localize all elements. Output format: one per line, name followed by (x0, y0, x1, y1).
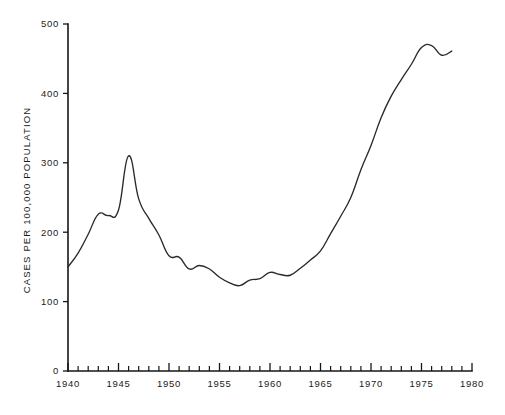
y-axis-title: CASES PER 100,000 POPULATION (21, 107, 32, 294)
x-tick-label-1950: 1950 (157, 378, 181, 389)
y-tick-label-200: 200 (41, 227, 59, 238)
y-axis-group: 0100200300400500 CASES PER 100,000 POPUL… (21, 18, 68, 376)
y-tick-label-0: 0 (53, 365, 59, 376)
x-tick-label-1945: 1945 (107, 378, 131, 389)
data-series-line (68, 44, 452, 285)
x-tick-label-1940: 1940 (56, 378, 80, 389)
x-tick-label-1960: 1960 (258, 378, 282, 389)
chart-canvas: 0100200300400500 CASES PER 100,000 POPUL… (0, 0, 505, 415)
x-tick-label-1965: 1965 (309, 378, 333, 389)
x-axis-ticks (68, 363, 472, 371)
line-chart-figure: 0100200300400500 CASES PER 100,000 POPUL… (0, 0, 505, 415)
x-tick-label-1980: 1980 (460, 378, 484, 389)
y-tick-label-500: 500 (41, 18, 59, 29)
y-tick-label-400: 400 (41, 88, 59, 99)
x-axis-tick-labels: 194019451950195519601965197019751980 (56, 378, 484, 389)
x-axis-group: 194019451950195519601965197019751980 (56, 363, 484, 389)
x-tick-label-1955: 1955 (208, 378, 232, 389)
y-axis-tick-labels: 0100200300400500 (41, 18, 59, 376)
x-tick-label-1975: 1975 (410, 378, 434, 389)
y-tick-label-300: 300 (41, 157, 59, 168)
x-tick-label-1970: 1970 (359, 378, 383, 389)
y-tick-label-100: 100 (41, 296, 59, 307)
